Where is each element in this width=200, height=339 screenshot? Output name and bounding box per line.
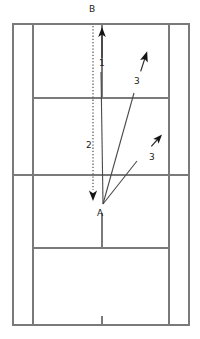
shot-3b-arrow: [149, 132, 165, 149]
shot-2-arrowhead: [89, 191, 97, 202]
shot-3a-line: [103, 93, 134, 204]
shot-trajectories: [89, 26, 165, 204]
shot-label-2: 2: [86, 141, 92, 150]
shot-3a-arrowhead: [140, 50, 151, 62]
point-label-a: A: [97, 209, 103, 218]
shot-3b-line: [103, 161, 137, 204]
court-lines: [13, 24, 189, 325]
shot-label-3a: 3: [134, 77, 140, 86]
shot-label-3b: 3: [149, 153, 155, 162]
diagram-canvas: B 1 2 3 3 A: [0, 0, 200, 339]
shot-3a-arrow: [137, 50, 151, 72]
point-label-b: B: [89, 5, 95, 14]
court-diagram-svg: [0, 0, 200, 339]
shot-label-1: 1: [99, 59, 105, 68]
